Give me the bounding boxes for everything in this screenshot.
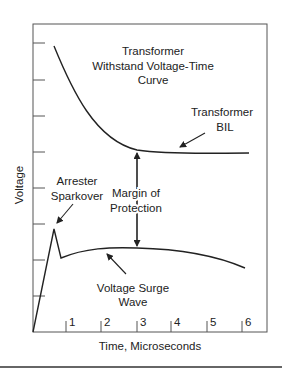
svg-text:Curve: Curve [138,74,169,86]
x-tick-label: 4 [174,316,181,328]
bil-arrow [180,133,205,147]
svg-text:Wave: Wave [119,296,148,308]
arrester-arrow [57,204,73,223]
svg-text:Voltage Surge: Voltage Surge [97,282,169,294]
y-axis-ticks [33,43,45,296]
x-tick-labels: 1 2 3 4 5 6 [69,316,251,328]
x-axis-label: Time, Microseconds [99,340,202,352]
surge-arrow [107,254,126,274]
bottom-rule [0,366,282,368]
withstand-label: Transformer Withstand Voltage-Time Curve [92,45,214,86]
svg-text:Sparkover: Sparkover [51,190,104,202]
surge-label: Voltage Surge Wave [97,282,169,308]
svg-text:Transformer: Transformer [191,106,253,118]
chart: 1 2 3 4 5 6 Transformer Withstand Voltag… [0,0,282,370]
y-axis-label: Voltage [13,166,25,204]
svg-text:BIL: BIL [216,121,234,133]
x-tick-label: 3 [140,316,146,328]
arrester-label: Arrester Sparkover [51,175,104,202]
svg-text:Withstand Voltage-Time: Withstand Voltage-Time [92,60,214,72]
svg-text:Protection: Protection [110,202,162,214]
x-tick-label: 2 [104,316,110,328]
x-tick-label: 6 [245,316,251,328]
bil-label: Transformer BIL [191,106,253,133]
svg-text:Transformer: Transformer [122,45,184,57]
margin-label: Margin of Protection [110,187,162,214]
svg-text:Margin of: Margin of [112,187,161,199]
x-tick-label: 5 [210,316,216,328]
x-tick-label: 1 [69,316,75,328]
svg-text:Arrester: Arrester [57,175,98,187]
